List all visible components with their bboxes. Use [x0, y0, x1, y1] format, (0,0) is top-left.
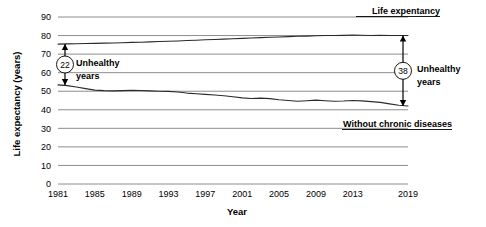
x-tick-label-2005: 2005	[269, 189, 289, 199]
annotation-value-text: 22	[60, 60, 70, 70]
annotation-label-line2: years	[76, 71, 100, 81]
y-axis-tick-labels: 0102030405060708090	[41, 12, 51, 189]
y-tick-label-10: 10	[41, 161, 51, 171]
x-tick-label-1997: 1997	[195, 189, 215, 199]
y-tick-label-90: 90	[41, 12, 51, 22]
series-line-1	[58, 85, 408, 106]
y-tick-label-60: 60	[41, 68, 51, 78]
annotation-unhealthy-years-2019: 38Unhealthyyears	[395, 36, 461, 107]
y-axis-title: Life expectancy (years)	[11, 51, 22, 156]
x-tick-label-1981: 1981	[48, 189, 68, 199]
x-tick-label-2009: 2009	[306, 189, 326, 199]
y-tick-label-50: 50	[41, 86, 51, 96]
annotation-arrowhead-top	[400, 36, 406, 42]
annotation-value-text: 38	[398, 66, 408, 76]
x-tick-label-1989: 1989	[122, 189, 142, 199]
x-tick-label-1985: 1985	[85, 189, 105, 199]
y-tick-label-0: 0	[46, 179, 51, 189]
life-expectancy-line-chart: 0102030405060708090 19811985198919931997…	[0, 0, 486, 227]
x-tick-label-2019: 2019	[398, 189, 418, 199]
x-axis-title: Year	[227, 206, 247, 217]
x-axis-tick-labels: 1981198519891993199720012005200920132019	[48, 189, 418, 199]
annotation-arrowhead-bottom	[62, 79, 68, 85]
data-series	[58, 35, 408, 106]
x-tick-label-1993: 1993	[159, 189, 179, 199]
chart-container: 0102030405060708090 19811985198919931997…	[0, 0, 486, 227]
series-line-0	[58, 35, 408, 44]
y-tick-label-80: 80	[41, 31, 51, 41]
x-tick-label-2013: 2013	[343, 189, 363, 199]
annotation-label-line2: years	[417, 77, 441, 87]
annotation-label-line1: Unhealthy	[76, 58, 120, 68]
annotation-label-line1: Unhealthy	[417, 64, 461, 74]
annotation-unhealthy-years-1981: 22Unhealthyyears	[57, 44, 120, 85]
x-tick-label-2001: 2001	[232, 189, 252, 199]
annotations: 22Unhealthyyears38Unhealthyyears	[57, 36, 461, 107]
annotation-arrowhead-top	[62, 44, 68, 50]
y-tick-label-70: 70	[41, 49, 51, 59]
series-label-1: Without chronic diseases	[343, 119, 452, 129]
y-tick-label-30: 30	[41, 124, 51, 134]
y-tick-label-20: 20	[41, 142, 51, 152]
y-tick-label-40: 40	[41, 105, 51, 115]
series-label-0: Life expentancy	[372, 6, 440, 16]
